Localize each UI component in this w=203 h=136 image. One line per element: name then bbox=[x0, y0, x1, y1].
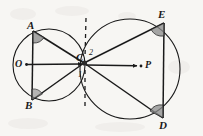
label-point-c: C bbox=[76, 52, 83, 63]
right-angle-mark-b bbox=[32, 89, 43, 100]
radius-arrow-right bbox=[86, 65, 137, 66]
right-angle-mark-a bbox=[33, 31, 44, 43]
dashed-tangent-upper bbox=[85, 18, 86, 57]
label-angle-1: 1 bbox=[78, 71, 82, 79]
label-center-o: O bbox=[15, 59, 22, 69]
geometry-figure: A B E D C O P 2 1 bbox=[0, 0, 203, 136]
center-dot-o bbox=[25, 63, 28, 66]
circle-right bbox=[80, 19, 180, 119]
center-dot-p bbox=[140, 65, 143, 68]
label-point-b: B bbox=[25, 100, 32, 111]
label-angle-2: 2 bbox=[89, 49, 93, 57]
label-point-a: A bbox=[27, 20, 34, 31]
label-point-d: D bbox=[159, 120, 167, 131]
label-point-e: E bbox=[158, 9, 165, 20]
segment-e-d bbox=[163, 23, 164, 118]
triangle-right-ced bbox=[84, 23, 164, 118]
right-angle-marks-group bbox=[32, 23, 164, 118]
label-center-p: P bbox=[145, 60, 151, 70]
radius-arrow-left bbox=[27, 64, 82, 65]
right-angle-mark-d bbox=[150, 105, 163, 118]
